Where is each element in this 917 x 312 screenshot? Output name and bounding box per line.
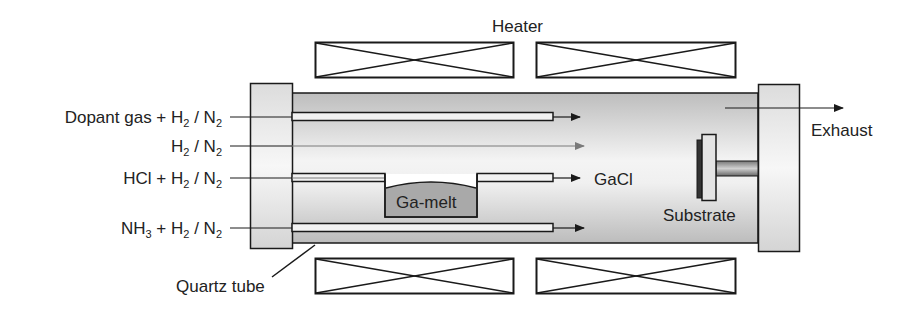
heater-top-right	[537, 43, 736, 78]
substrate-label: Substrate	[663, 206, 736, 225]
left-flange	[251, 84, 293, 249]
inlet-label-carrier: H2 / N2	[171, 137, 222, 158]
heater-label: Heater	[492, 17, 543, 36]
quartz-tube-label: Quartz tube	[176, 277, 265, 296]
quartz-tube-leader	[272, 245, 315, 277]
inlet-label-dopant: Dopant gas + H2 / N2	[65, 108, 222, 129]
gacl-label: GaCl	[594, 170, 633, 189]
inlet-label-nh3: NH3 + H2 / N2	[121, 219, 222, 240]
hvpe-reactor-diagram: Heater	[0, 0, 917, 312]
heater-bottom-right	[537, 259, 736, 294]
ga-melt-label: Ga-melt	[396, 193, 457, 212]
inlet-label-hcl: HCl + H2 / N2	[123, 169, 222, 190]
right-flange	[759, 85, 800, 252]
heater-bottom-left	[316, 259, 514, 294]
heater-top-left	[316, 43, 514, 78]
exhaust-label: Exhaust	[811, 121, 873, 140]
